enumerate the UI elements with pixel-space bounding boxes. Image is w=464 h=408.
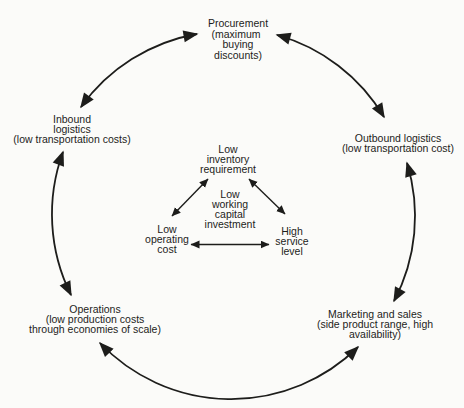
arrow-service-level-inventory	[249, 179, 285, 214]
node-marketing-sales: Marketing and sales (side product range,…	[317, 308, 433, 340]
supply-chain-cycle-diagram: Procurement (maximum buying discounts) I…	[0, 0, 464, 408]
center-service-level-line: level	[281, 245, 303, 257]
arrow-inbound-procurement	[81, 34, 197, 107]
node-marketing-line: availability)	[349, 328, 401, 340]
arrow-operating-cost-inventory	[172, 179, 208, 216]
center-working-capital-line: investment	[205, 218, 256, 230]
arrow-operations-inbound	[52, 152, 71, 295]
node-procurement: Procurement (maximum buying discounts)	[208, 17, 268, 61]
node-inbound-line: (low transportation costs)	[13, 133, 130, 145]
node-operations: Operations (low production costs through…	[29, 303, 161, 335]
center-operating-cost: Low operating cost	[145, 223, 189, 255]
center-inventory-line: requirement	[200, 163, 256, 175]
node-outbound-logistics: Outbound logistics (low transportation c…	[342, 132, 454, 155]
center-low-inventory: Low inventory requirement	[200, 143, 256, 175]
node-outbound-line: (low transportation cost)	[342, 142, 454, 154]
arrow-marketing-operations	[100, 343, 358, 399]
node-inbound-logistics: Inbound logistics (low transportation co…	[13, 113, 130, 145]
node-operations-line: through economies of scale)	[29, 323, 161, 335]
node-procurement-line: discounts)	[214, 49, 262, 61]
arrow-procurement-outbound	[277, 35, 384, 117]
center-service-level: High service level	[275, 225, 308, 257]
arrow-outbound-marketing	[394, 163, 415, 301]
center-operating-cost-line: cost	[157, 243, 176, 255]
center-working-capital: Low working capital investment	[205, 188, 256, 230]
